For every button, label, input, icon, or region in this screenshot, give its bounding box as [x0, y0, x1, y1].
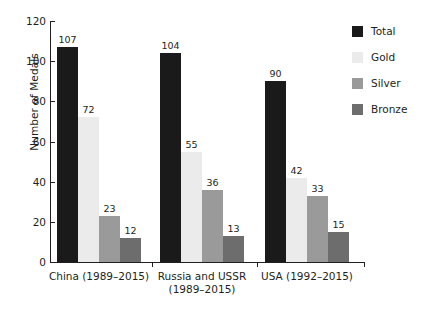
bar-gold-group-1 [78, 117, 99, 262]
bar-total-group-1 [57, 47, 78, 262]
bar-value-label: 107 [50, 35, 85, 45]
bar-bronze-group-2 [223, 236, 244, 262]
legend-item-silver[interactable]: Silver [352, 70, 430, 96]
bar-bronze-group-1 [120, 238, 141, 262]
bar-chart-figure: Number of Medals 020406080100120 1077223… [0, 0, 433, 309]
bar-value-label: 104 [153, 41, 188, 51]
bar-value-label: 72 [71, 105, 106, 115]
legend-swatch-gold [352, 52, 363, 63]
legend-label: Gold [371, 52, 395, 63]
bar-bronze-group-3 [328, 232, 349, 262]
legend-item-total[interactable]: Total [352, 18, 430, 44]
bar-value-label: 55 [174, 140, 209, 150]
x-axis-group-label: USA (1992–2015) [237, 270, 377, 283]
bar-value-label: 90 [258, 69, 293, 79]
bar-silver-group-1 [99, 216, 120, 262]
legend-label: Bronze [371, 104, 407, 115]
legend: TotalGoldSilverBronze [352, 18, 430, 122]
bar-value-label: 23 [92, 204, 127, 214]
bar-value-label: 36 [195, 178, 230, 188]
bar-gold-group-2 [181, 152, 202, 262]
legend-item-gold[interactable]: Gold [352, 44, 430, 70]
legend-label: Total [371, 26, 396, 37]
bar-value-label: 42 [279, 166, 314, 176]
bar-total-group-2 [160, 53, 181, 262]
legend-swatch-total [352, 26, 363, 37]
bar-value-label: 13 [216, 224, 251, 234]
bar-value-label: 33 [300, 184, 335, 194]
legend-label: Silver [371, 78, 401, 89]
legend-item-bronze[interactable]: Bronze [352, 96, 430, 122]
bar-value-label: 15 [321, 220, 356, 230]
legend-swatch-bronze [352, 104, 363, 115]
bar-value-label: 12 [113, 226, 148, 236]
legend-swatch-silver [352, 78, 363, 89]
